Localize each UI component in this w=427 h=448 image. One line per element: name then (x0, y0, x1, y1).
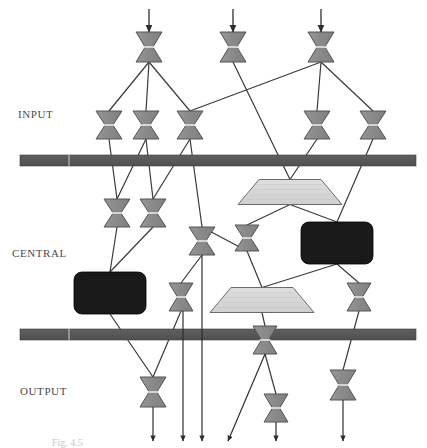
connector-blk-2-to-tz-2 (262, 264, 337, 288)
connector-v-in-2-to-v-ce-1 (117, 139, 146, 199)
black-block-blk-2 (301, 222, 373, 264)
connector-v-in-5-to-blk-2 (337, 139, 373, 222)
connector-v-in-3-to-v-ce-2 (153, 139, 190, 199)
connector-v-top-1-to-v-in-1 (109, 62, 149, 111)
connector-v-ce-7-to-v-out-2 (265, 354, 276, 394)
connector-tz-1-to-v-ce-4 (247, 205, 290, 226)
connector-blk-2-to-v-ce-6 (337, 264, 359, 283)
output-boundary-bar (20, 329, 416, 340)
connector-tz-1-to-blk-2 (290, 205, 337, 223)
connector-v-ce-4-to-tz-2 (247, 251, 262, 288)
tier-label-input: INPUT (18, 108, 53, 120)
connector-v-in-1-to-v-ce-1 (109, 139, 117, 199)
connector-v-top-1-to-v-in-2 (146, 62, 149, 111)
connector-blk-1-to-v-out-1 (110, 314, 153, 377)
trapezoid-node-tz-1 (238, 180, 342, 205)
input-boundary-bar (20, 155, 416, 166)
tier-label-central: CENTRAL (12, 247, 67, 259)
tier-label-output: OUTPUT (20, 385, 67, 397)
black-block-blk-1 (74, 272, 146, 314)
trapezoid-node-tz-2 (210, 288, 314, 313)
connector-v-top-3-to-v-in-5 (321, 62, 373, 111)
connector-v-in-2-to-v-ce-2 (146, 139, 153, 199)
connector-v-top-3-to-v-in-3 (190, 62, 321, 111)
diagram-canvas: INPUT CENTRAL OUTPUT Fig. 4.5 (0, 0, 427, 448)
connector-tz-2-to-v-ce-7 (262, 313, 265, 327)
figure-caption: Fig. 4.5 (52, 437, 83, 448)
connector-v-ce-6-to-v-out-3 (343, 311, 359, 370)
connector-v-ce-3-to-v-ce-5 (181, 255, 202, 283)
connector-v-in-3-to-v-ce-3 (190, 139, 202, 227)
connector-v-ce-5-to-v-out-1 (153, 311, 181, 377)
outlet-arrow-out-arrow-4 (228, 354, 265, 441)
connector-v-top-1-to-v-in-3 (149, 62, 190, 111)
valve-network-svg (0, 0, 427, 448)
connector-v-top-3-to-v-in-4 (317, 62, 321, 111)
